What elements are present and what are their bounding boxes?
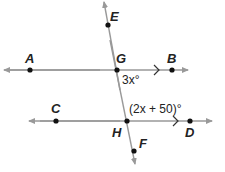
point-b	[169, 67, 174, 72]
point-c	[53, 118, 58, 123]
label-b: B	[167, 51, 176, 66]
point-g	[114, 67, 119, 72]
label-a: A	[24, 51, 34, 66]
label-d: D	[185, 125, 195, 140]
point-a	[27, 67, 32, 72]
label-h: H	[112, 125, 122, 140]
label-g: G	[116, 51, 126, 66]
label-f: F	[139, 136, 148, 151]
label-c: C	[51, 101, 61, 116]
point-h	[124, 118, 129, 123]
label-e: E	[110, 9, 119, 24]
angle-label-g: 3x°	[122, 73, 140, 87]
point-f	[131, 148, 136, 153]
parallel-lines-diagram: E A G B 3x° C (2x + 50)° H D F	[0, 0, 225, 172]
angle-label-h: (2x + 50)°	[129, 102, 182, 116]
point-d	[187, 118, 192, 123]
